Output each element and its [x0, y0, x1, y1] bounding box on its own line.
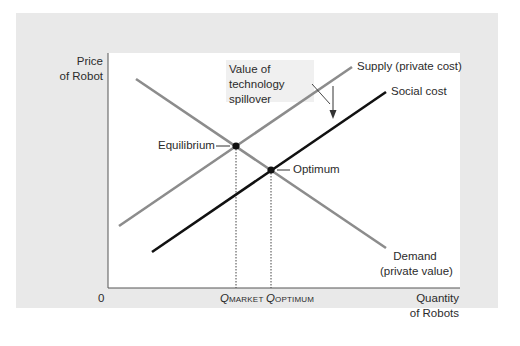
origin-label: 0 — [98, 291, 104, 306]
supply-label: Supply (private cost) — [357, 59, 462, 74]
spillover-label: Value of technology spillover — [229, 62, 285, 107]
spillover-label-line2: technology — [229, 77, 285, 92]
q-optimum-sub: OPTIMUM — [275, 295, 314, 304]
q-market-main: Q — [220, 292, 229, 304]
social-cost-label: Social cost — [391, 84, 447, 99]
x-axis-label-line2: of Robots — [380, 306, 459, 321]
x-axis-label: Quantity of Robots — [380, 291, 459, 321]
optimum-label: Optimum — [293, 162, 340, 177]
x-axis-label-line1: Quantity — [380, 291, 459, 306]
optimum-point — [267, 166, 274, 173]
equilibrium-label: Equilibrium — [158, 138, 215, 153]
equilibrium-point — [232, 142, 239, 149]
y-axis-label-line1: Price — [40, 54, 103, 69]
spillover-arrow-head-icon — [330, 110, 337, 119]
y-axis-label: Price of Robot — [40, 54, 103, 84]
q-optimum-main: Q — [266, 292, 275, 304]
q-market-sub: MARKET — [229, 295, 264, 304]
spillover-label-line1: Value of — [229, 62, 285, 77]
demand-label-line2: (private value) — [380, 264, 450, 279]
q-optimum-label: QOPTIMUM — [266, 291, 314, 307]
y-axis-label-line2: of Robot — [40, 69, 103, 84]
spillover-label-line3: spillover — [229, 92, 285, 107]
q-market-label: QMARKET — [220, 291, 264, 307]
demand-label-line1: Demand — [380, 249, 450, 264]
demand-label: Demand (private value) — [380, 249, 450, 279]
